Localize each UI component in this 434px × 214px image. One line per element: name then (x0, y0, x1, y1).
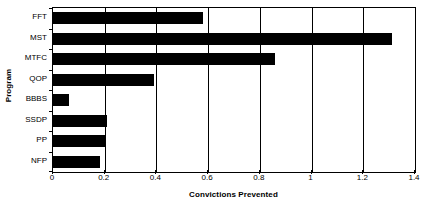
x-tick-label: 0.4 (150, 174, 161, 182)
x-tick-label: 0.6 (202, 174, 213, 182)
x-tick-label: 1 (308, 174, 312, 182)
bar (53, 12, 203, 24)
bars-layer (53, 8, 415, 172)
bar-row (53, 12, 415, 24)
bar (53, 74, 154, 86)
y-tick-label: MST (14, 28, 50, 49)
x-tick-label: 0.2 (98, 174, 109, 182)
y-tick-label: MTFC (14, 48, 50, 69)
y-tick-label: PP (14, 130, 50, 151)
bar-row (53, 33, 415, 45)
bar (53, 53, 275, 65)
bar-row (53, 94, 415, 106)
y-tick-label: QOP (14, 69, 50, 90)
bar-chart: Program FFTMSTMTFCQOPBBBSSSDPPPNFP 00.20… (0, 0, 434, 214)
bar-row (53, 156, 415, 168)
y-tick-label: SSDP (14, 110, 50, 131)
x-tick-label: 0 (50, 174, 54, 182)
x-tick-label: 1.2 (357, 174, 368, 182)
bar-row (53, 53, 415, 65)
x-axis-title: Convictions Prevented (52, 190, 415, 199)
y-tick-label: FFT (14, 7, 50, 28)
bar (53, 135, 105, 147)
bar (53, 94, 69, 106)
bar-row (53, 115, 415, 127)
bar-row (53, 135, 415, 147)
bar (53, 33, 392, 45)
y-tick-label: NFP (14, 151, 50, 172)
bar-row (53, 74, 415, 86)
y-axis-title-text: Program (5, 68, 14, 102)
x-axis-tick-labels: 00.20.40.60.811.21.4 (52, 174, 415, 186)
y-axis-tick-labels: FFTMSTMTFCQOPBBBSSSDPPPNFP (14, 7, 50, 171)
x-tick-label: 1.4 (408, 174, 419, 182)
y-tick-label: BBBS (14, 89, 50, 110)
plot-area (52, 7, 416, 173)
bar (53, 115, 107, 127)
bar (53, 156, 100, 168)
x-tick-label: 0.8 (253, 174, 264, 182)
